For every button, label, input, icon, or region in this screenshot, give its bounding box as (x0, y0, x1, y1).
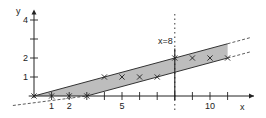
x-axis-arrow-icon (249, 94, 254, 99)
chart: 12510124 y x x=8 (0, 0, 266, 118)
y-tick-label: 2 (23, 53, 28, 63)
y-axis-label: y (16, 6, 21, 16)
x-tick-label: 5 (119, 101, 124, 111)
y-tick-label: 1 (23, 72, 28, 82)
x-axis-label: x (240, 102, 245, 112)
x-tick-label: 1 (49, 101, 54, 111)
x-tick-label: 10 (205, 101, 215, 111)
upper-line-dashed (228, 38, 251, 44)
x-tick-label: 2 (67, 101, 72, 111)
upper-line (34, 44, 228, 96)
y-tick-label: 4 (23, 15, 28, 25)
y-axis-arrow-icon (32, 9, 37, 14)
marker-label: x=8 (158, 36, 173, 46)
lower-line-dashed-right (228, 52, 251, 58)
